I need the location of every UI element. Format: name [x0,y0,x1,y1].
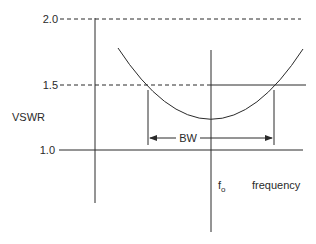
y-axis-label: VSWR [12,111,45,123]
arrow-left-icon [149,135,157,141]
tick-label-1-5: 1.5 [43,79,58,91]
vswr-diagram: 2.0 1.5 1.0 VSWR BW fo frequency [0,0,316,244]
arrow-right-icon [265,135,273,141]
tick-label-1-0: 1.0 [40,144,55,156]
bandwidth-label: BW [179,132,197,144]
center-frequency-label: fo [218,179,226,194]
center-frequency-subscript: o [221,185,226,194]
tick-label-2-0: 2.0 [43,13,58,25]
x-axis-label: frequency [252,179,301,191]
